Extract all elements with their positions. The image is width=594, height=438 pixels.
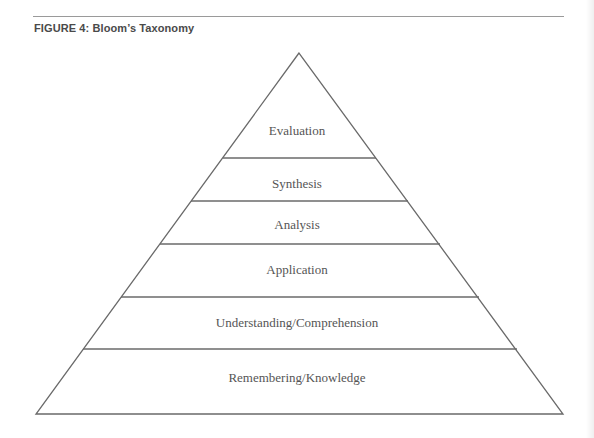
level-understanding: Understanding/Comprehension	[0, 315, 594, 331]
level-remembering: Remembering/Knowledge	[0, 370, 594, 386]
page-edge-shadow	[586, 0, 594, 438]
level-analysis: Analysis	[0, 217, 594, 233]
level-evaluation: Evaluation	[0, 123, 594, 139]
level-application: Application	[0, 262, 594, 278]
pyramid-outline	[36, 53, 563, 414]
level-synthesis: Synthesis	[0, 176, 594, 192]
